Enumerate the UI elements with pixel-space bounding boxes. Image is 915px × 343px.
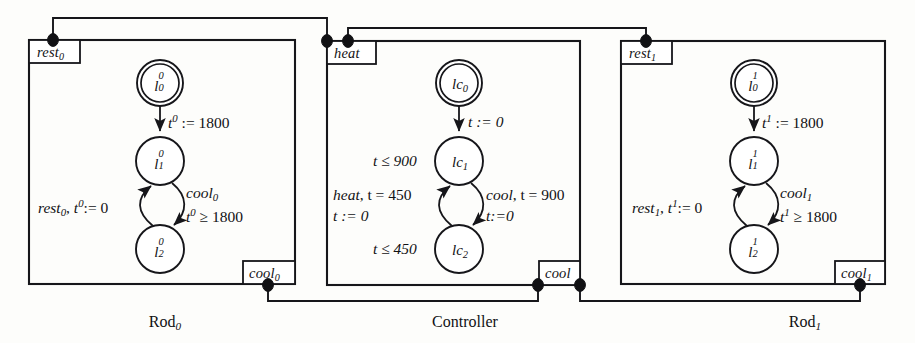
wire-cool0-to-cool[interactable]: [268, 284, 538, 301]
connector-dot-heat-left: [322, 35, 333, 48]
transition-label-cool-guard-rod0: t0 ≥ 1800: [186, 207, 243, 224]
wire-rest0-to-heat[interactable]: [53, 18, 327, 41]
wire-cool-to-cool1[interactable]: [580, 284, 860, 301]
state-label-l2-rod0: l02: [154, 242, 167, 260]
state-label-lc2: lc2: [452, 243, 468, 260]
transition-label-init-rod1: t1 := 1800: [762, 113, 824, 130]
transition-l1-to-l2-rod0[interactable]: [172, 183, 184, 225]
state-label-l1-rod1: l11: [748, 154, 761, 172]
transition-l2-to-l1-rod0[interactable]: [140, 186, 153, 226]
component-caption-rod0: Rod0: [149, 314, 181, 332]
port-label-cool1: cool1: [841, 266, 872, 283]
transition-label-init-rod0: t0 := 1800: [168, 113, 230, 130]
state-label-lc1: lc1: [452, 155, 468, 172]
transition-label-rest-rod0: rest0, t0:= 0: [38, 198, 108, 218]
transition-label-cool-event-rod0: cool0: [186, 185, 218, 203]
invariant-label-lc2: t ≤ 450: [373, 241, 417, 257]
transition-label-cool-guard-rod1: t1 ≥ 1800: [780, 207, 837, 224]
state-label-l1-rod0: l01: [154, 154, 167, 172]
component-caption-controller: Controller: [432, 314, 498, 330]
state-label-l0-rod1: l10: [748, 76, 761, 94]
component-caption-rod1: Rod1: [789, 314, 821, 332]
transition-l1-to-l2-rod1[interactable]: [766, 183, 778, 225]
connector-dot-cool-left: [533, 279, 544, 292]
port-label-cool: cool: [545, 266, 571, 281]
transition-label-rest-rod1: rest1, t1:= 0: [632, 198, 702, 218]
state-label-l2-rod1: l12: [748, 242, 761, 260]
port-label-heat: heat: [334, 46, 360, 61]
connector-dot-cool-right: [575, 279, 586, 292]
transition-label-init-controller: t := 0: [468, 114, 503, 130]
transition-label-heat-guard-line1: heat, t = 450: [333, 187, 412, 203]
port-label-cool0: cool0: [249, 266, 280, 283]
transition-lc2-to-lc1[interactable]: [439, 186, 452, 226]
invariant-label-lc1: t ≤ 900: [373, 153, 417, 169]
transition-label-cool-guard-line1: cool, t = 900: [486, 187, 565, 203]
transition-label-cool-event-rod1: cool1: [780, 185, 812, 203]
transition-lc1-to-lc2[interactable]: [471, 183, 483, 225]
port-label-rest1: rest1: [629, 46, 656, 63]
transition-label-cool-guard-line2: t:=0: [486, 208, 514, 224]
transition-label-heat-guard-line2: t := 0: [333, 208, 368, 224]
port-label-rest0: rest0: [37, 45, 64, 62]
state-label-l0-rod0: l00: [154, 76, 167, 94]
timed-automata-figure: rest0 cool0 l00 l01 l02 t0 := 1800 cool0…: [0, 0, 915, 343]
transition-l2-to-l1-rod1[interactable]: [734, 186, 747, 226]
wire-heat-to-rest1[interactable]: [348, 28, 646, 41]
state-label-lc0: lc0: [452, 77, 468, 94]
